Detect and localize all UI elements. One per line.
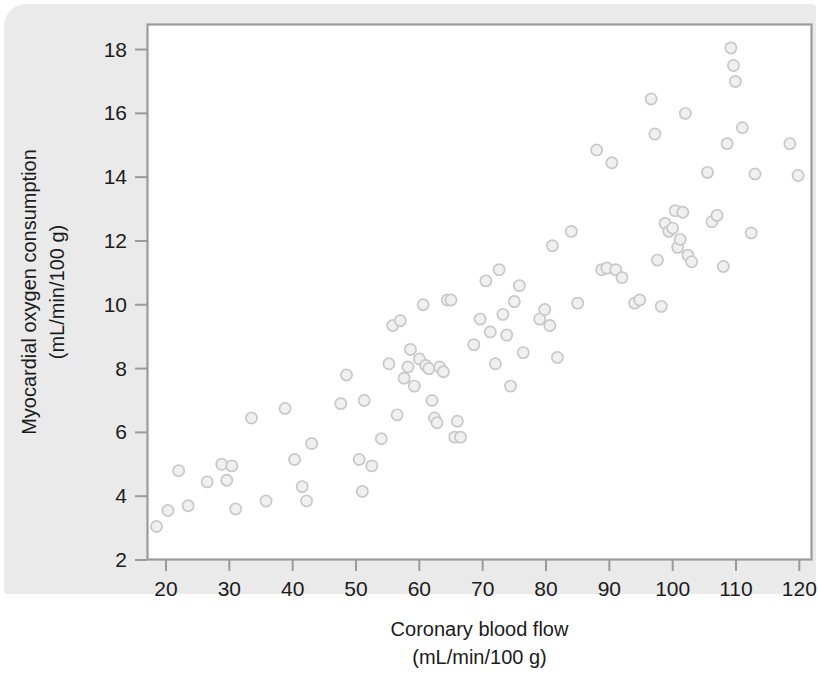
data-point xyxy=(552,352,563,363)
data-point xyxy=(547,240,558,251)
data-point xyxy=(518,347,529,358)
data-point xyxy=(306,438,317,449)
data-point xyxy=(426,395,437,406)
plot-area-background xyxy=(147,24,812,560)
data-point xyxy=(737,122,748,133)
data-point xyxy=(297,481,308,492)
x-axis-title: Coronary blood flow xyxy=(391,618,569,640)
data-point xyxy=(438,366,449,377)
data-point xyxy=(468,339,479,350)
data-point xyxy=(656,301,667,312)
data-point xyxy=(591,144,602,155)
data-point xyxy=(151,521,162,532)
x-axis-tick-label: 70 xyxy=(471,577,494,600)
y-axis-tick-label: 2 xyxy=(115,548,127,571)
x-axis-tick-label: 20 xyxy=(154,577,177,600)
x-axis: 2030405060708090100110120 xyxy=(154,560,817,600)
data-point xyxy=(677,207,688,218)
data-point xyxy=(418,299,429,310)
data-point xyxy=(221,475,232,486)
data-point xyxy=(680,108,691,119)
y-axis-tick-label: 14 xyxy=(104,165,128,188)
x-axis-tick-label: 120 xyxy=(782,577,817,600)
data-point xyxy=(514,280,525,291)
data-point xyxy=(260,495,271,506)
data-point xyxy=(572,298,583,309)
y-axis-tick-label: 6 xyxy=(115,420,127,443)
x-axis-tick-label: 110 xyxy=(719,577,752,600)
data-point xyxy=(357,486,368,497)
y-axis-tick-label: 8 xyxy=(115,357,127,380)
data-point xyxy=(445,294,456,305)
data-point xyxy=(376,433,387,444)
data-point xyxy=(539,304,550,315)
data-point xyxy=(616,272,627,283)
figure-canvas: 203040506070809010011012024681012141618C… xyxy=(0,0,818,677)
data-point xyxy=(667,223,678,234)
data-point xyxy=(725,42,736,53)
data-point xyxy=(722,138,733,149)
data-point xyxy=(646,93,657,104)
data-point xyxy=(728,60,739,71)
x-axis-tick-label: 30 xyxy=(218,577,241,600)
data-point xyxy=(354,454,365,465)
data-point xyxy=(566,226,577,237)
y-axis-tick-label: 16 xyxy=(104,101,127,124)
scatter-plot-svg: 203040506070809010011012024681012141618C… xyxy=(0,0,818,677)
y-axis-tick-label: 18 xyxy=(104,38,127,61)
data-point xyxy=(718,261,729,272)
data-point xyxy=(686,256,697,267)
data-point xyxy=(652,254,663,265)
scatter-plot: 203040506070809010011012024681012141618C… xyxy=(0,0,818,677)
data-point xyxy=(675,234,686,245)
data-point xyxy=(749,168,760,179)
data-point xyxy=(485,326,496,337)
data-point xyxy=(366,460,377,471)
data-point xyxy=(162,505,173,516)
data-point xyxy=(792,170,803,181)
x-axis-title-units: (mL/min/100 g) xyxy=(412,646,547,668)
data-point xyxy=(480,275,491,286)
data-point xyxy=(173,465,184,476)
x-axis-tick-label: 40 xyxy=(281,577,304,600)
y-axis-tick-label: 4 xyxy=(115,484,127,507)
data-point xyxy=(402,361,413,372)
data-point xyxy=(341,369,352,380)
data-point xyxy=(399,373,410,384)
data-point xyxy=(494,264,505,275)
y-axis: 24681012141618 xyxy=(104,38,147,571)
data-point xyxy=(423,363,434,374)
data-point xyxy=(702,167,713,178)
data-point xyxy=(455,432,466,443)
data-point xyxy=(202,476,213,487)
x-axis-tick-label: 50 xyxy=(344,577,367,600)
data-point xyxy=(383,358,394,369)
data-point xyxy=(544,320,555,331)
data-point xyxy=(301,495,312,506)
data-point xyxy=(452,416,463,427)
data-point xyxy=(226,460,237,471)
data-point xyxy=(475,314,486,325)
y-axis-tick-label: 10 xyxy=(104,293,127,316)
data-point xyxy=(784,138,795,149)
data-point xyxy=(490,358,501,369)
data-point xyxy=(730,76,741,87)
data-point xyxy=(501,329,512,340)
data-point xyxy=(649,128,660,139)
data-point xyxy=(409,381,420,392)
y-axis-title-units: (mL/min/100 g) xyxy=(46,225,68,360)
y-axis-tick-label: 12 xyxy=(104,229,127,252)
data-point xyxy=(246,412,257,423)
data-point xyxy=(395,315,406,326)
x-axis-tick-label: 100 xyxy=(655,577,690,600)
data-point xyxy=(405,344,416,355)
data-point xyxy=(606,157,617,168)
x-axis-tick-label: 80 xyxy=(534,577,557,600)
x-axis-tick-label: 60 xyxy=(408,577,431,600)
data-point xyxy=(359,395,370,406)
data-point xyxy=(183,500,194,511)
data-point xyxy=(431,417,442,428)
x-axis-tick-label: 90 xyxy=(598,577,621,600)
data-point xyxy=(497,309,508,320)
data-point xyxy=(746,227,757,238)
